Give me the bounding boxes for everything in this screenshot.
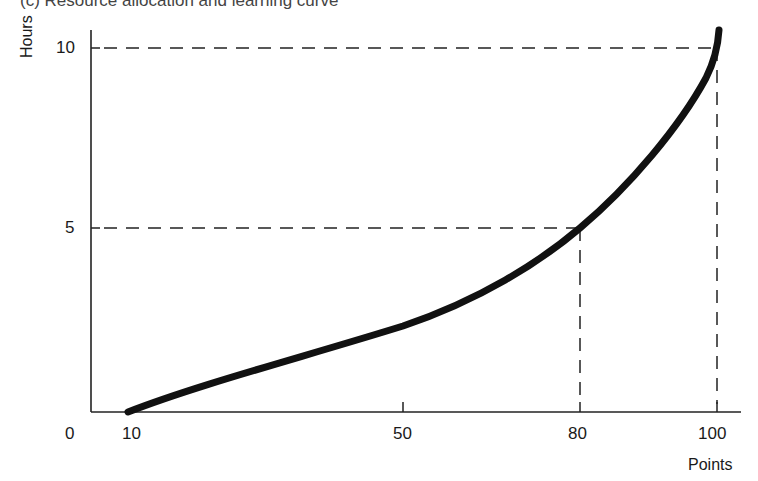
chart-canvas [0, 0, 758, 481]
effort-curve [128, 30, 719, 412]
